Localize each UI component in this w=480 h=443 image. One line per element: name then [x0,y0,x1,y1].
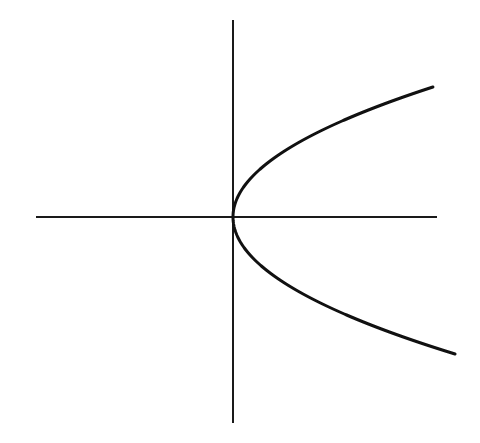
parabola-curve [233,87,455,354]
parabola-diagram [0,0,480,443]
plot-canvas [0,0,480,443]
